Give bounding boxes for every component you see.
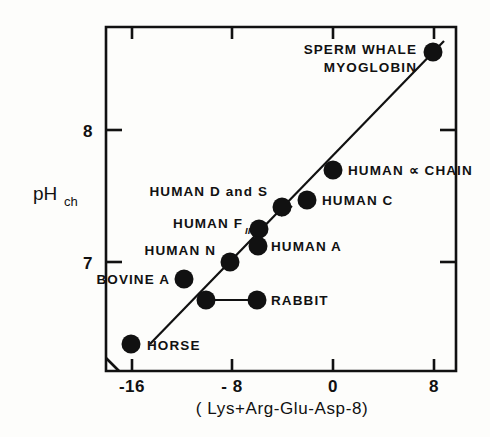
point-label-human-n: HUMAN N	[145, 243, 216, 258]
x-axis-title: ( Lys+Arg-Glu-Asp-8)	[196, 399, 368, 418]
point-label-sperm-whale-line1: SPERM WHALE	[304, 42, 417, 57]
data-point-human-n	[221, 253, 240, 272]
point-label-human-f2: HUMAN F	[173, 216, 243, 231]
point-labels: SPERM WHALE MYOGLOBIN HUMAN ∝ CHAIN HUMA…	[96, 42, 472, 353]
point-label-rabbit: RABBIT	[271, 293, 329, 308]
data-point-rabbit-right	[248, 291, 267, 310]
data-point-bovine-a	[175, 270, 194, 289]
point-label-sperm-whale-line2: MYOGLOBIN	[324, 60, 417, 75]
point-label-human-f2-subscript: II	[245, 225, 251, 236]
data-point-human-a	[249, 237, 268, 256]
point-label-human-a: HUMAN A	[271, 239, 342, 254]
x-tick-label-minus8: - 8	[221, 377, 242, 396]
point-label-human-d-and-s: HUMAN D and S	[149, 184, 268, 199]
y-tick-label-eight: 8	[83, 122, 93, 141]
point-label-horse: HORSE	[147, 338, 201, 353]
chart-figure: -16 - 8 0 8 8 7 pH ch ( Lys+Arg-Glu-Asp-…	[0, 0, 490, 437]
data-point-sperm-whale-myoglobin	[424, 43, 443, 62]
data-point-human-d-and-s	[273, 198, 292, 217]
y-axis-title: pH ch	[33, 183, 78, 209]
data-point-human-c	[298, 191, 317, 210]
origin-notch	[106, 358, 119, 371]
point-label-human-c: HUMAN C	[322, 193, 393, 208]
x-tick-label-eight: 8	[429, 377, 439, 396]
data-point-rabbit-left	[197, 291, 216, 310]
data-point-horse	[122, 335, 141, 354]
x-tick-label-minus16: -16	[119, 377, 145, 396]
scatter-plot-svg: -16 - 8 0 8 8 7 pH ch ( Lys+Arg-Glu-Asp-…	[0, 0, 490, 437]
x-tick-label-zero: 0	[328, 377, 338, 396]
y-axis-title-sub: ch	[64, 194, 78, 209]
point-label-human-alpha-chain: HUMAN ∝ CHAIN	[348, 163, 473, 178]
y-axis-title-main: pH	[33, 183, 57, 204]
data-point-human-alpha-chain	[324, 161, 343, 180]
data-point-human-f2	[250, 220, 269, 239]
y-tick-label-seven: 7	[83, 254, 93, 273]
point-label-bovine-a: BOVINE A	[96, 272, 170, 287]
